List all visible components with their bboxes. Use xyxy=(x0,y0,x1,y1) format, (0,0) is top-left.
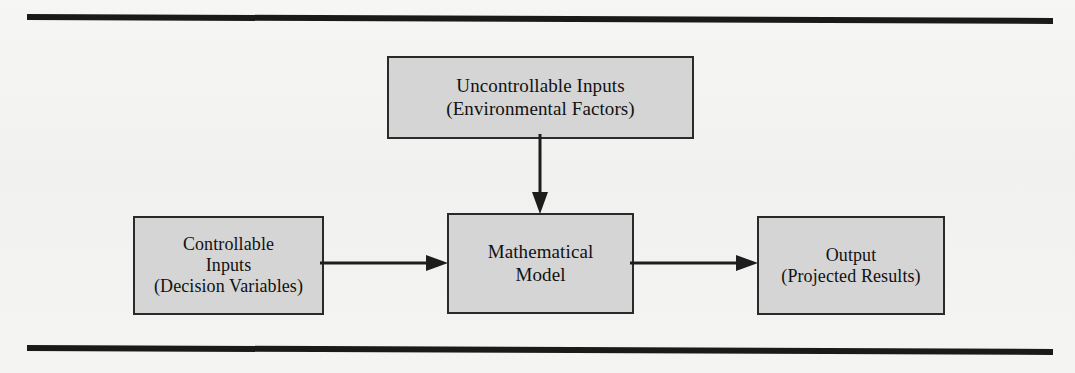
diagram-figure: Uncontrollable Inputs (Environmental Fac… xyxy=(0,0,1075,373)
node-controllable-line-3: (Decision Variables) xyxy=(154,276,303,297)
arrow-down-icon-uncontrollable-to-model xyxy=(500,134,580,218)
arrow-right-icon-model-to-output xyxy=(630,248,760,278)
node-output-line-2: (Projected Results) xyxy=(781,266,920,287)
arrow-right-icon-controllable-to-model xyxy=(320,248,450,278)
node-controllable-line-1: Controllable xyxy=(183,234,274,255)
node-model-line-1: Mathematical xyxy=(488,241,594,263)
node-uncontrollable-line-2: (Environmental Factors) xyxy=(446,98,635,120)
node-controllable-line-2: Inputs xyxy=(206,255,252,276)
node-model-line-2: Model xyxy=(515,264,565,286)
node-uncontrollable-line-1: Uncontrollable Inputs xyxy=(456,75,624,97)
node-controllable-inputs: Controllable Inputs (Decision Variables) xyxy=(133,216,324,315)
node-uncontrollable-inputs: Uncontrollable Inputs (Environmental Fac… xyxy=(387,56,694,139)
node-output-line-1: Output xyxy=(826,245,877,266)
node-output: Output (Projected Results) xyxy=(757,216,945,315)
node-mathematical-model: Mathematical Model xyxy=(447,213,634,314)
